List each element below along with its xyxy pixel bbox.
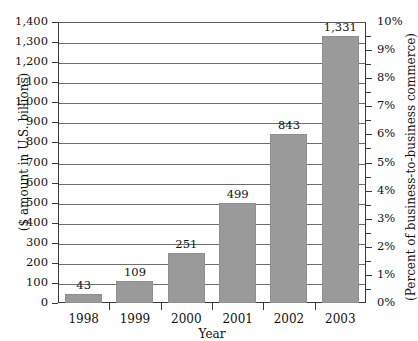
x-axis-title: Year	[58, 327, 366, 341]
y-axis-right-tick	[366, 78, 372, 79]
y-axis-right-tick	[366, 247, 372, 248]
y-axis-left-tick	[52, 22, 58, 23]
y-axis-left-tick	[52, 62, 58, 63]
y-axis-right-tick-label: 1%	[377, 269, 395, 281]
y-axis-right-minor-tick	[366, 205, 371, 206]
bar-value-label: 499	[212, 187, 263, 201]
y-axis-right-minor-tick	[366, 261, 371, 262]
y-axis-left-tick	[52, 102, 58, 103]
bar-slot: 43	[58, 22, 109, 303]
x-axis-tick	[109, 303, 110, 310]
y-axis-right-tick-label: 4%	[377, 185, 395, 197]
y-axis-left-tick	[52, 122, 58, 123]
bar-slot: 499	[212, 22, 263, 303]
y-axis-right-tick	[366, 163, 372, 164]
x-axis-tick	[212, 303, 213, 310]
bar-slot: 843	[263, 22, 314, 303]
y-axis-left-tick	[52, 223, 58, 224]
y-axis-right-minor-tick	[366, 92, 371, 93]
y-axis-right-tick-label: 2%	[377, 241, 395, 253]
x-axis-tick-label: 2000	[161, 312, 212, 326]
bar-value-label: 843	[263, 118, 314, 132]
y-axis-left-title: ($ amount in U.S. billions)	[17, 32, 31, 272]
y-axis-right-tick-label: 8%	[377, 72, 395, 84]
y-axis-right-minor-tick	[366, 233, 371, 234]
y-axis-right-tick-label: 0%	[377, 297, 395, 309]
y-axis-right-minor-tick	[366, 177, 371, 178]
y-axis-left-tick-label: 1,400	[15, 16, 48, 28]
y-axis-left-tick	[52, 283, 58, 284]
y-axis-left-tick	[52, 263, 58, 264]
y-axis-right-tick-label: 6%	[377, 128, 395, 140]
bar-value-label: 1,331	[315, 20, 366, 34]
bar-slot: 251	[161, 22, 212, 303]
x-axis-tick	[263, 303, 264, 310]
y-axis-left-tick	[52, 243, 58, 244]
bar-slot: 1,331	[315, 22, 366, 303]
x-axis-tick	[161, 303, 162, 310]
y-axis-right-tick-label: 7%	[377, 100, 395, 112]
y-axis-right-tick-label: 10%	[377, 16, 403, 28]
x-axis-tick-label: 1998	[58, 312, 109, 326]
y-axis-left-tick-label: 100	[26, 277, 48, 289]
bar[interactable]	[219, 203, 256, 303]
bar-value-label: 109	[109, 265, 160, 279]
y-axis-left-tick	[52, 163, 58, 164]
y-axis-right-tick	[366, 106, 372, 107]
y-axis-right-minor-tick	[366, 64, 371, 65]
bars-group: 431092514998431,331	[58, 22, 366, 303]
y-axis-right-tick	[366, 50, 372, 51]
x-axis-tick-label: 2003	[315, 312, 366, 326]
y-axis-left-tick	[52, 183, 58, 184]
y-axis-right-tick	[366, 191, 372, 192]
y-axis-right-tick	[366, 134, 372, 135]
bar[interactable]	[168, 253, 205, 303]
y-axis-left-tick	[52, 42, 58, 43]
y-axis-left-tick	[52, 203, 58, 204]
bar[interactable]	[65, 294, 102, 303]
y-axis-right-tick-label: 3%	[377, 213, 395, 225]
y-axis-right-minor-tick	[366, 289, 371, 290]
x-axis-tick-label: 1999	[109, 312, 160, 326]
bar[interactable]	[116, 281, 153, 303]
y-axis-left-tick	[52, 142, 58, 143]
y-axis-right-tick	[366, 275, 372, 276]
bar[interactable]	[270, 134, 307, 303]
y-axis-right-tick	[366, 219, 372, 220]
bar-value-label: 43	[58, 278, 109, 292]
y-axis-right-tick-label: 9%	[377, 44, 395, 56]
x-axis-tick-label: 2002	[263, 312, 314, 326]
y-axis-left-tick-label: 0	[41, 297, 48, 309]
y-axis-right-minor-tick	[366, 120, 371, 121]
x-axis-tick-labels: 199819992000200120022003	[58, 312, 366, 328]
bar-slot: 109	[109, 22, 160, 303]
y-axis-left-tick	[52, 82, 58, 83]
x-axis-ticks	[58, 303, 366, 312]
x-axis-tick-label: 2001	[212, 312, 263, 326]
y-axis-right-title: (Percent of business-to-business commerc…	[404, 7, 418, 327]
y-axis-right-tick-label: 5%	[377, 157, 395, 169]
x-axis-tick	[315, 303, 316, 310]
bar-value-label: 251	[161, 237, 212, 251]
y-axis-right-minor-tick	[366, 148, 371, 149]
y-axis-right-minor-tick	[366, 36, 371, 37]
bar[interactable]	[322, 36, 359, 303]
